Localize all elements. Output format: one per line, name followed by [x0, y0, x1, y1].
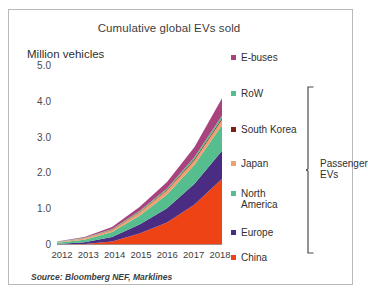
y-tick-label: 4.0: [21, 97, 51, 107]
legend-item-label: Japan: [241, 158, 268, 169]
legend-item-row[interactable]: RoW: [231, 88, 263, 99]
y-axis-title: Million vehicles: [27, 48, 104, 60]
x-tick-label: 2015: [128, 249, 154, 260]
page-title: Cumulative global EVs sold: [69, 22, 269, 34]
bracket-label-line2: EVs: [320, 169, 368, 180]
x-tick-label: 2014: [102, 249, 128, 260]
legend-swatch-icon: [231, 230, 236, 235]
legend-swatch-icon: [231, 255, 236, 260]
bracket-label-line1: Passenger: [320, 158, 368, 169]
legend-swatch-icon: [231, 55, 236, 60]
legend-item-label: South Korea: [241, 124, 297, 135]
plot-area: [57, 66, 222, 245]
x-tick-label: 2012: [49, 249, 75, 260]
legend-swatch-icon: [231, 191, 236, 196]
chart-card: Cumulative global EVs sold Million vehic…: [8, 9, 353, 285]
x-tick-label: 2016: [154, 249, 180, 260]
y-tick-label: 2.0: [21, 168, 51, 178]
legend-item-label: RoW: [241, 88, 263, 99]
y-tick-label: 3.0: [21, 133, 51, 143]
x-tick-label: 2018: [207, 249, 233, 260]
x-tick-label: 2017: [181, 249, 207, 260]
bracket-label: Passenger EVs: [320, 158, 368, 180]
y-tick-label: 1.0: [21, 204, 51, 214]
legend-item-label: China: [241, 252, 267, 263]
legend-item-europe[interactable]: Europe: [231, 227, 273, 238]
y-tick-label: 5.0: [21, 61, 51, 71]
passenger-evs-bracket-icon: [306, 86, 315, 254]
source-note: Source: Bloomberg NEF, Marklines: [31, 272, 172, 282]
legend-item-e-buses[interactable]: E-buses: [231, 52, 278, 63]
legend-item-label: E-buses: [241, 52, 278, 63]
legend-item-label: Europe: [241, 227, 273, 238]
y-tick-label: 0: [21, 240, 51, 250]
legend-item-north-america[interactable]: NorthAmerica: [231, 188, 295, 210]
legend-item-south-korea[interactable]: South Korea: [231, 124, 297, 135]
stacked-area-svg: [57, 66, 222, 245]
legend-item-china[interactable]: China: [231, 252, 267, 263]
legend-swatch-icon: [231, 161, 236, 166]
x-axis-ticks: 2012201320142015201620172018: [49, 249, 233, 260]
legend-item-label: NorthAmerica: [241, 188, 295, 210]
legend-swatch-icon: [231, 127, 236, 132]
x-tick-label: 2013: [75, 249, 101, 260]
legend-item-japan[interactable]: Japan: [231, 158, 268, 169]
legend-swatch-icon: [231, 91, 236, 96]
